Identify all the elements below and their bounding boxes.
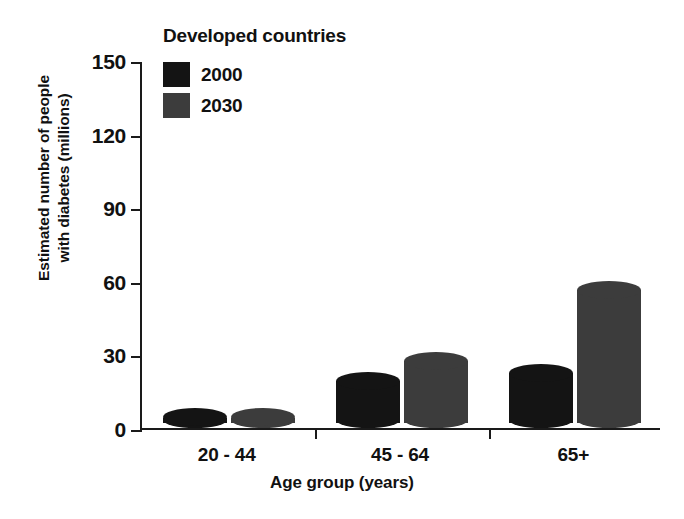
bar-top-ellipse: [336, 372, 400, 390]
chart-title: Developed countries: [163, 25, 346, 47]
y-axis-tick: [131, 283, 142, 285]
x-axis-separator-tick: [489, 428, 491, 439]
y-axis-tick: [131, 136, 142, 138]
bar-top-ellipse: [577, 281, 641, 299]
y-axis-tick: [131, 356, 142, 358]
bar-2000-45-64: [336, 372, 400, 428]
x-axis-title: Age group (years): [0, 473, 684, 493]
bar-2030-45-64: [404, 352, 468, 428]
x-axis-separator-tick: [315, 428, 317, 439]
y-axis-label: 60: [103, 271, 126, 295]
plot-area: 0306090120150: [140, 62, 660, 430]
y-axis-tick: [131, 430, 142, 432]
y-axis-label: 120: [92, 124, 126, 148]
x-axis-label: 20 - 44: [198, 444, 256, 466]
chart-root: Developed countries 2000 2030 Estimated …: [0, 0, 684, 519]
bar-2000-65+: [509, 364, 573, 428]
y-axis-title-line2: with diabetes (millions): [54, 94, 74, 263]
y-axis-label: 90: [103, 197, 126, 221]
y-axis-title: Estimated number of people with diabetes…: [32, 28, 76, 328]
y-axis-label: 30: [103, 344, 126, 368]
y-axis-label: 150: [92, 50, 126, 74]
y-axis-title-line1: Estimated number of people: [34, 75, 54, 281]
y-axis-tick: [131, 62, 142, 64]
bar-2030-65+: [577, 281, 641, 428]
y-axis-tick: [131, 209, 142, 211]
bar-body: [577, 290, 641, 423]
x-axis-label: 45 - 64: [371, 444, 429, 466]
bar-top-ellipse: [404, 352, 468, 370]
y-axis-label: 0: [115, 418, 126, 442]
x-axis-label: 65+: [558, 444, 590, 466]
bar-2000-20-44: [163, 408, 227, 428]
bar-body: [404, 361, 468, 423]
bar-2030-20-44: [231, 408, 295, 428]
